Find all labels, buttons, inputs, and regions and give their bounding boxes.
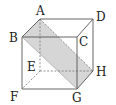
shaded-plane-abgh — [22, 19, 93, 89]
vertex-label-h: H — [96, 65, 106, 79]
vertex-label-d: D — [96, 10, 106, 24]
vertex-label-f: F — [10, 90, 18, 104]
vertex-label-b: B — [9, 31, 18, 45]
vertex-label-a: A — [35, 4, 45, 18]
vertex-label-e: E — [27, 60, 36, 74]
vertex-label-c: C — [79, 35, 88, 49]
vertex-label-g: G — [72, 91, 82, 105]
cube-diagram: A D B C E H F G — [0, 0, 116, 105]
